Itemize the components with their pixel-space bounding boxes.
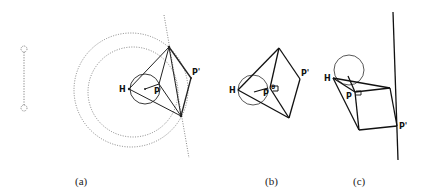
tangent-line	[164, 15, 189, 158]
wall-line	[393, 12, 398, 160]
label-H-a: H	[119, 85, 126, 94]
diagram-canvas: H P P' H P θ P'	[0, 0, 421, 196]
caption-b: (b)	[265, 175, 278, 187]
label-H-c: H	[324, 74, 331, 83]
label-Pprime-b: P'	[301, 69, 309, 78]
panel-a: H P P'	[74, 15, 200, 158]
label-P-c: P	[346, 92, 352, 101]
dotted-link-left	[21, 46, 27, 111]
label-H-b: H	[229, 86, 236, 95]
caption-a: (a)	[75, 175, 87, 187]
panel-b: H P θ P'	[229, 48, 309, 118]
panel-c: H P P'	[324, 12, 407, 160]
caption-c: (c)	[353, 175, 365, 187]
label-theta-b: θ	[271, 83, 275, 90]
label-P-a: P	[154, 87, 160, 96]
label-P-b: P	[263, 89, 269, 98]
label-Pprime-a: P'	[192, 68, 200, 77]
label-Pprime-c: P'	[399, 122, 407, 131]
